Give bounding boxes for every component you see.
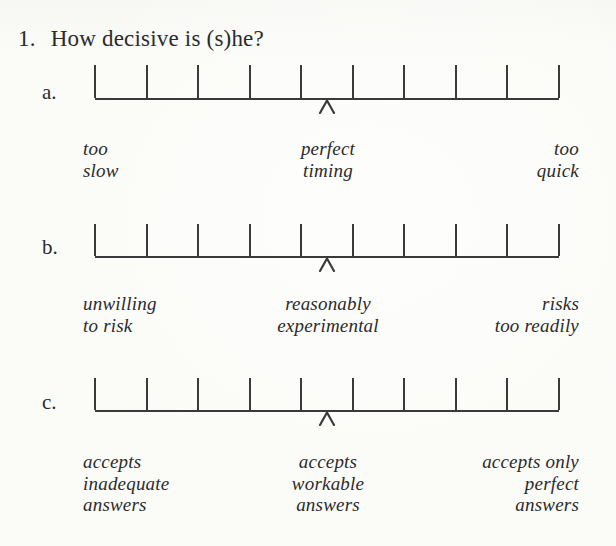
tick-mark: [352, 224, 354, 256]
scale-c-line: [95, 378, 559, 412]
tick-mark: [506, 224, 508, 256]
tick-mark: [558, 65, 560, 98]
tick-mark: [197, 378, 199, 410]
scale-a-line: [95, 65, 559, 100]
tick-mark: [300, 224, 302, 256]
question-text: How decisive is (s)he?: [51, 26, 264, 52]
scale-b-marker-caret-icon: [318, 257, 336, 272]
scale-a-label-left: too slow: [83, 138, 119, 181]
scale-a-letter: a.: [42, 80, 57, 105]
tick-mark: [249, 378, 251, 410]
tick-mark: [352, 65, 354, 98]
scale-c-label-left: accepts inadequate answers: [83, 451, 169, 516]
question-title: 1. How decisive is (s)he?: [18, 26, 264, 52]
tick-mark: [146, 224, 148, 256]
tick-mark: [352, 378, 354, 410]
scale-b-label-left: unwilling to risk: [83, 293, 157, 336]
tick-mark: [300, 378, 302, 410]
tick-mark: [558, 224, 560, 256]
tick-mark: [197, 65, 199, 98]
tick-mark: [94, 65, 96, 98]
scale-b-label-center: reasonably experimental: [277, 293, 379, 336]
tick-mark: [300, 65, 302, 98]
question-number: 1.: [18, 26, 36, 52]
tick-mark: [506, 65, 508, 98]
tick-mark: [506, 378, 508, 410]
tick-mark: [197, 224, 199, 256]
scale-c-label-right: accepts only perfect answers: [482, 451, 579, 516]
tick-mark: [146, 378, 148, 410]
tick-mark: [455, 65, 457, 98]
tick-mark: [249, 224, 251, 256]
tick-mark: [94, 378, 96, 410]
questionnaire-page: 1. How decisive is (s)he? a. too slow pe…: [0, 0, 616, 546]
tick-mark: [403, 378, 405, 410]
scale-a-marker-caret-icon: [318, 99, 336, 114]
tick-mark: [455, 378, 457, 410]
scale-b-line: [95, 224, 559, 258]
scale-b-label-right: risks too readily: [495, 293, 579, 336]
scale-c-letter: c.: [42, 390, 57, 415]
tick-mark: [403, 224, 405, 256]
tick-mark: [403, 65, 405, 98]
scale-a-label-right: too quick: [537, 138, 579, 181]
tick-mark: [558, 378, 560, 410]
scale-b-letter: b.: [42, 235, 58, 260]
tick-mark: [455, 224, 457, 256]
tick-mark: [94, 224, 96, 256]
scale-a-label-center: perfect timing: [301, 138, 355, 181]
scale-c-marker-caret-icon: [318, 411, 336, 426]
tick-mark: [249, 65, 251, 98]
tick-mark: [146, 65, 148, 98]
scale-c-label-center: accepts workable answers: [292, 451, 364, 516]
